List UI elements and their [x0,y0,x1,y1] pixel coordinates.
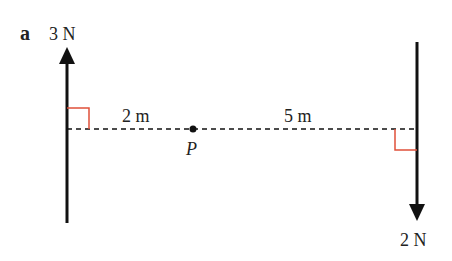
point-p-label: P [185,139,197,159]
force-arrow-left [59,47,75,223]
distance-label-5m: 5 m [284,106,312,126]
force-label-left: 3 N [49,24,76,44]
point-p-dot [190,126,197,133]
arrow-up-icon [59,47,75,64]
part-label: a [20,22,30,44]
force-arrow-right [409,42,425,221]
right-angle-marker-left [67,108,89,129]
arrow-down-icon [409,204,425,221]
moments-diagram: a 3 N 2 N 2 m 5 m P [0,0,452,261]
force-label-right: 2 N [400,230,427,250]
right-angle-marker-right [395,129,417,150]
distance-label-2m: 2 m [122,106,150,126]
